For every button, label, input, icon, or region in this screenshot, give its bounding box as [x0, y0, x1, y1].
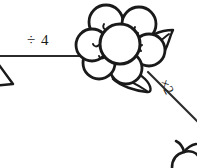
flower-center	[100, 24, 140, 64]
edge-label-divide: ÷ 4	[27, 33, 49, 48]
triangle-node-partial	[0, 58, 13, 86]
bottom-right-node-partial	[172, 141, 197, 168]
diagram-canvas: ÷ 4 ×2	[0, 0, 197, 168]
diagonal-connector	[148, 72, 197, 124]
flower-node	[76, 5, 173, 92]
